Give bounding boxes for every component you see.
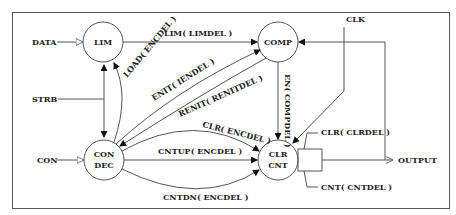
node-clrcnt-label-1: CLR bbox=[269, 149, 288, 159]
feedback-to-comp bbox=[299, 42, 385, 160]
cnt-cntdel-leader bbox=[304, 171, 318, 187]
node-condec: CON DEC bbox=[84, 140, 124, 180]
input-clk-label: CLK bbox=[346, 14, 366, 24]
timer-state-diagram: LIM COMP CON DEC CLR CNT DATA STRB CON C… bbox=[0, 0, 456, 215]
edge-cntdn-label: CNTDN( ENCDEL ) bbox=[163, 192, 249, 202]
edge-lim-comp-label: LIM( LIMDEL ) bbox=[164, 28, 232, 38]
clk-arrow bbox=[293, 27, 344, 143]
input-strb-label: STRB bbox=[32, 94, 57, 104]
edge-load-label: LOAD( ENCDEL ) bbox=[121, 13, 178, 79]
node-comp: COMP bbox=[258, 22, 298, 62]
input-con-label: CON bbox=[37, 155, 58, 165]
node-lim: LIM bbox=[83, 22, 123, 62]
edge-cntup-label: CNTUP( ENCDEL ) bbox=[158, 146, 242, 156]
input-data-label: DATA bbox=[32, 37, 57, 47]
output-label: OUTPUT bbox=[398, 155, 437, 165]
cnt-cntdel-label: CNT( CNTDEL ) bbox=[321, 182, 392, 192]
edge-load bbox=[114, 63, 122, 142]
node-lim-label: LIM bbox=[94, 37, 112, 47]
clr-clrdel-label: CLR( CLRDEL ) bbox=[321, 127, 390, 137]
node-condec-label-2: DEC bbox=[94, 160, 113, 170]
counter-register-box bbox=[298, 149, 322, 171]
node-comp-label: COMP bbox=[264, 37, 292, 47]
edge-cntdn bbox=[122, 169, 259, 189]
clr-clrdel-leader bbox=[304, 133, 318, 149]
node-clrcnt-label-2: CNT bbox=[268, 160, 288, 170]
node-condec-label-1: CON bbox=[94, 149, 115, 159]
edge-en-compdel-label: EN( COMPDEL ) bbox=[283, 74, 293, 148]
